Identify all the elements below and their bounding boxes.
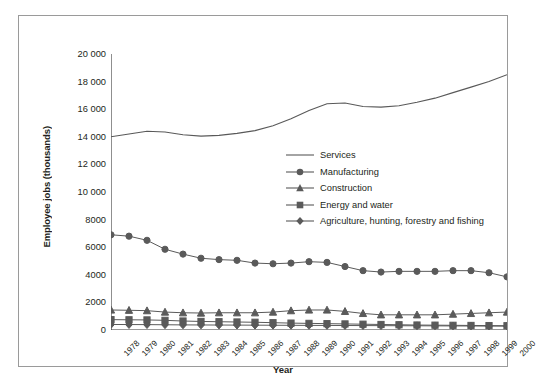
x-axis-tick-label: 1979: [139, 338, 159, 358]
legend-marker-square-icon: [285, 198, 315, 212]
x-axis-tick-label: 1988: [301, 338, 321, 358]
x-axis-tick-label: 1986: [265, 338, 285, 358]
legend-item: Manufacturing: [285, 164, 484, 181]
y-axis-tick-label: 6000: [85, 242, 106, 252]
legend-marker-none-icon: [285, 148, 315, 162]
x-axis-tick-label: 1980: [157, 338, 177, 358]
y-axis-tick-label: 12 000: [78, 159, 106, 169]
legend-item: Energy and water: [285, 197, 484, 214]
x-axis-tick-label: 1996: [445, 338, 465, 358]
x-axis-tick-label: 1984: [229, 338, 249, 358]
x-axis-tick-label: 1997: [463, 338, 483, 358]
x-axis-tick-label: 1982: [193, 338, 213, 358]
x-axis-tick-label: 1983: [211, 338, 231, 358]
legend-label: Construction: [320, 183, 372, 193]
y-axis-tick-label: 14 000: [78, 132, 106, 142]
legend-item: Agriculture, hunting, forestry and fishi…: [285, 213, 484, 230]
legend-marker-triangle-icon: [285, 181, 315, 195]
series-manufacturing: [111, 235, 507, 277]
x-axis-tick-label: 1993: [391, 338, 411, 358]
chart-frame: Employee jobs (thousands) 20 00018 00016…: [18, 15, 508, 367]
chart-legend: ServicesManufacturingConstructionEnergy …: [285, 147, 484, 230]
x-axis-tick-label: 1987: [283, 338, 303, 358]
x-axis-tick-label: 1999: [499, 338, 519, 358]
legend-marker-diamond-icon: [285, 214, 315, 228]
y-axis-tick-label: 4000: [85, 270, 106, 280]
x-axis-title: Year: [19, 364, 540, 375]
x-axis-tick-label: 1985: [247, 338, 267, 358]
y-axis-tick-label: 10 000: [78, 187, 106, 197]
y-axis-tick-label: 8000: [85, 215, 106, 225]
legend-item: Construction: [285, 180, 484, 197]
x-axis-tick-label: 1994: [409, 338, 429, 358]
x-axis-tick-label: 1981: [175, 338, 195, 358]
y-axis-tick-label: 20 000: [78, 49, 106, 59]
legend-label: Services: [320, 150, 356, 160]
legend-item: Services: [285, 147, 484, 164]
x-axis-tick-label: 1998: [481, 338, 501, 358]
series-services: [111, 75, 507, 137]
legend-label: Energy and water: [320, 200, 393, 210]
x-axis-tick-label: 1990: [337, 338, 357, 358]
x-axis-tick-label: 1978: [121, 338, 141, 358]
y-axis-title: Employee jobs (thousands): [41, 126, 59, 248]
legend-label: Manufacturing: [320, 167, 379, 177]
x-axis-tick-label: 1992: [373, 338, 393, 358]
y-axis-tick-labels: 20 00018 00016 00014 00012 00010 0008000…: [59, 54, 106, 330]
y-axis-tick-label: 2000: [85, 297, 106, 307]
x-axis-tick-label: 1995: [427, 338, 447, 358]
y-axis-tick-label: 16 000: [78, 104, 106, 114]
x-axis-tick-label: 1989: [319, 338, 339, 358]
legend-label: Agriculture, hunting, forestry and fishi…: [320, 216, 484, 226]
x-axis-tick-label: 1991: [355, 338, 375, 358]
x-axis-tick-label: 2000: [517, 338, 537, 358]
y-axis-tick-label: 0: [101, 325, 106, 335]
y-axis-tick-label: 18 000: [78, 77, 106, 87]
legend-marker-circle-icon: [285, 165, 315, 179]
